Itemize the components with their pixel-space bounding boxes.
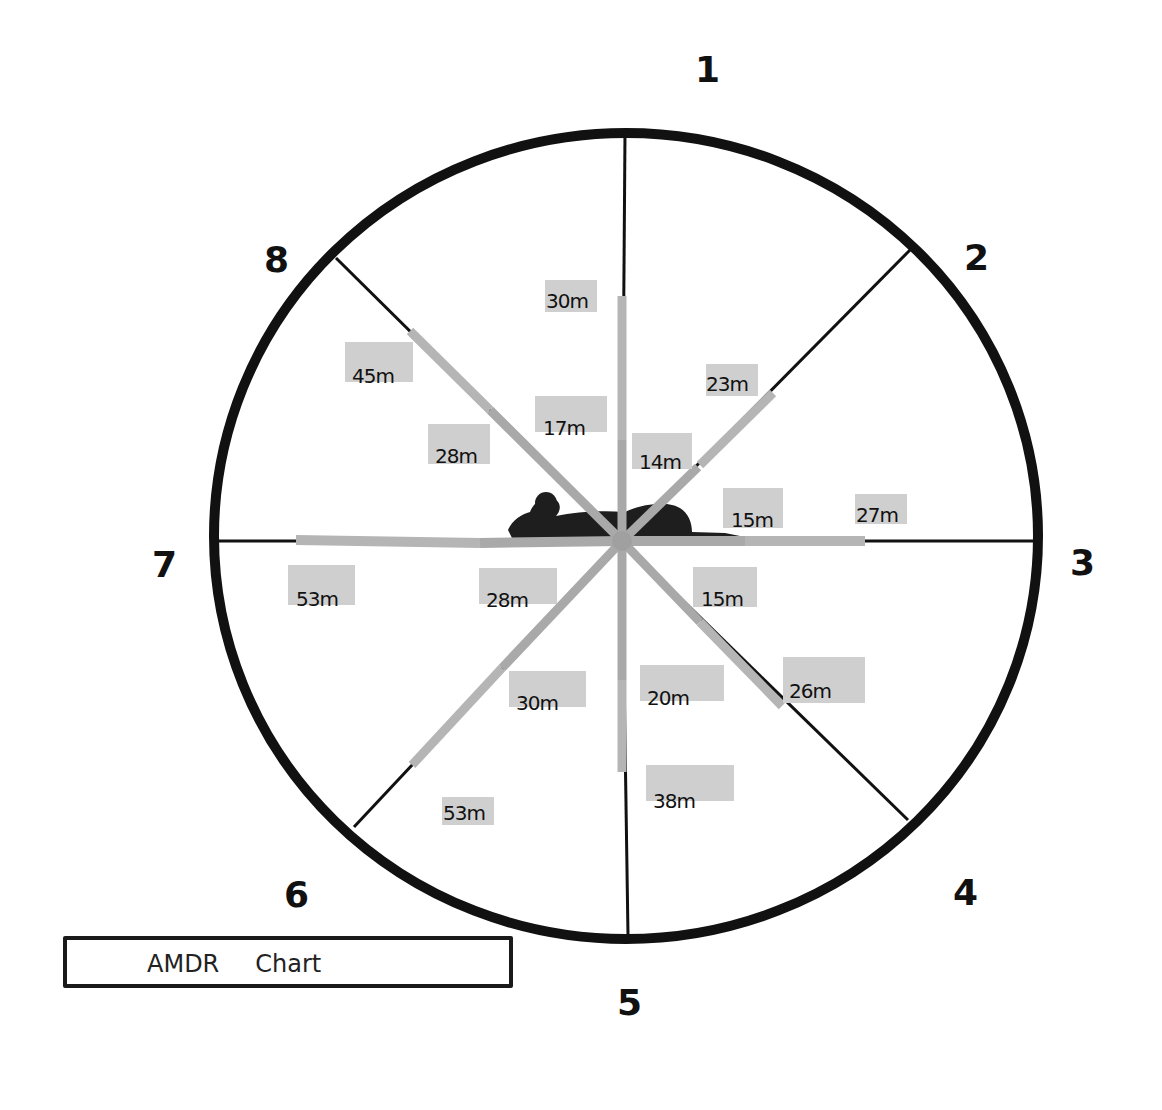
- inner-label-5: 20m: [647, 686, 689, 710]
- range-bar-inner-7: [480, 541, 622, 543]
- inner-label-4: 15m: [701, 587, 743, 611]
- sector-number-3: 3: [1070, 542, 1095, 583]
- sector-number-1: 1: [695, 49, 720, 90]
- range-bar-outer-7: [296, 540, 480, 543]
- inner-label-8: 28m: [435, 444, 477, 468]
- sector-number-6: 6: [284, 874, 309, 915]
- inner-label-1: 17m: [543, 416, 585, 440]
- outer-label-1: 30m: [546, 289, 588, 313]
- outer-label-3: 27m: [856, 503, 898, 527]
- inner-label-6: 30m: [516, 691, 558, 715]
- chart-title-box: AMDRChart: [63, 936, 513, 988]
- sector-number-7: 7: [152, 544, 177, 585]
- sector-number-5: 5: [617, 982, 642, 1023]
- inner-label-3: 15m: [731, 508, 773, 532]
- range-bar-outer-8: [410, 331, 490, 410]
- outer-label-8: 45m: [352, 364, 394, 388]
- outer-label-7: 53m: [296, 587, 338, 611]
- sector-number-2: 2: [964, 237, 989, 278]
- sector-number-4: 4: [953, 872, 978, 913]
- chart-title-word-2: Chart: [255, 950, 321, 978]
- range-bar-inner-4: [622, 541, 700, 622]
- outer-label-5: 38m: [653, 789, 695, 813]
- range-bar-outer-6: [412, 668, 502, 765]
- outer-label-4: 26m: [789, 679, 831, 703]
- chart-title-word-1: AMDR: [147, 950, 219, 978]
- sector-number-8: 8: [264, 239, 289, 280]
- outer-label-6: 53m: [443, 801, 485, 825]
- inner-label-2: 14m: [639, 450, 681, 474]
- outer-label-2: 23m: [706, 372, 748, 396]
- center-hub: [612, 531, 632, 551]
- chart-title: AMDRChart: [147, 950, 321, 978]
- inner-label-7: 28m: [486, 588, 528, 612]
- distance-labels: 30m 17m 23m 14m 27m 15m 26m 15m 38m 20m …: [288, 280, 907, 825]
- range-bar-outer-2: [700, 393, 773, 465]
